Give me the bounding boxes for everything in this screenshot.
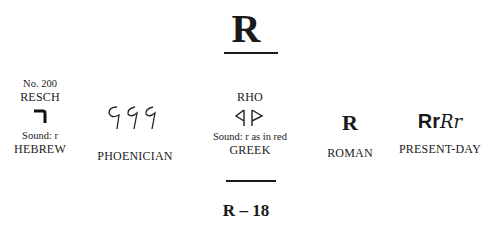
greek-name: RHO (190, 90, 310, 104)
hebrew-column: No. 200 RESCH Sound: r HEBREW (10, 78, 70, 156)
roman-column: R ROMAN (315, 110, 385, 160)
hebrew-sound: Sound: r (10, 130, 70, 142)
greek-column: RHO Sound: r as in red GREEK (190, 90, 310, 157)
heading-underline (224, 52, 278, 54)
present-day-column: RrRr PRESENT-DAY (390, 110, 490, 156)
present-day-print-glyphs: Rr (418, 110, 440, 132)
phoenician-glyphs-icon (105, 103, 165, 133)
phoenician-column: PHOENICIAN (95, 103, 175, 163)
hebrew-number: No. 200 (10, 78, 70, 90)
present-day-label: PRESENT-DAY (390, 142, 490, 156)
footer-divider (226, 180, 276, 182)
roman-label: ROMAN (315, 146, 385, 160)
page-code: R – 18 (0, 201, 492, 221)
greek-sound: Sound: r as in red (190, 131, 310, 143)
roman-glyph: R (315, 110, 385, 136)
greek-rho-glyphs-icon (232, 107, 268, 127)
phoenician-label: PHOENICIAN (95, 149, 175, 163)
present-day-script-glyphs: Rr (440, 111, 462, 132)
hebrew-resh-glyph-icon (30, 106, 50, 126)
greek-label: GREEK (190, 143, 310, 157)
page-letter-heading: R (0, 6, 492, 52)
hebrew-name: RESCH (10, 90, 70, 104)
hebrew-label: HEBREW (10, 142, 70, 156)
